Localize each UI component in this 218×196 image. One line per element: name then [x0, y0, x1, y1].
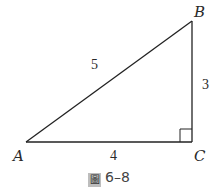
side-label-ac: 4 — [110, 148, 117, 163]
side-label-bc: 3 — [202, 77, 209, 92]
side-label-ab: 5 — [91, 57, 98, 72]
figure-caption: 圖6–8 — [0, 169, 218, 187]
right-angle-marker — [180, 129, 192, 142]
right-triangle-figure: A B C 5 3 4 圖6–8 — [0, 0, 218, 196]
figure-number: 6–8 — [105, 169, 130, 185]
vertex-label-c: C — [194, 147, 206, 165]
triangle-diagram: A B C 5 3 4 — [0, 0, 218, 196]
figure-char-icon: 圖 — [88, 173, 101, 187]
vertex-label-a: A — [11, 147, 24, 165]
vertex-label-b: B — [193, 3, 205, 21]
side-ab — [26, 21, 192, 142]
